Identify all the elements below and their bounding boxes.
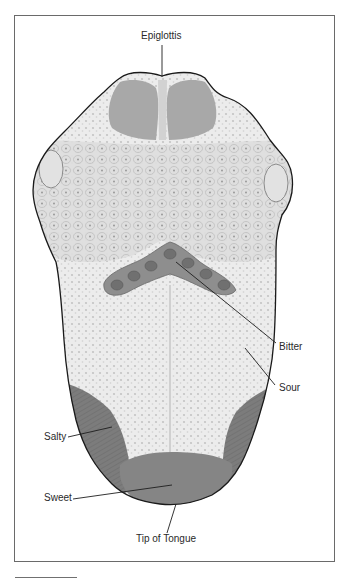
left-foliate-patch (39, 150, 63, 188)
bitter-label: Bitter (279, 341, 302, 353)
sour-label: Sour (279, 382, 300, 394)
tongue (30, 73, 300, 521)
epiglottis-label: Epiglottis (141, 30, 182, 42)
salty-label: Salty (44, 431, 66, 443)
right-foliate-patch (264, 164, 288, 202)
tip-of-tongue-label: Tip of Tongue (136, 533, 196, 545)
sweet-label: Sweet (44, 492, 72, 504)
median-fold (158, 80, 167, 140)
tip-leader (167, 504, 176, 533)
footnote-rule (15, 577, 77, 578)
